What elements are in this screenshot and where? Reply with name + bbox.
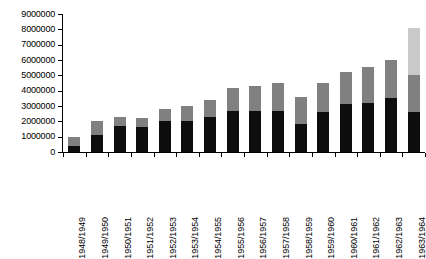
- bar-segment-series-1: [317, 112, 329, 152]
- bar-segment-series-1: [136, 127, 148, 152]
- bar-segment-series-2: [227, 88, 239, 112]
- y-tick-mark: [58, 152, 62, 153]
- x-tick-label: 1960/1961: [350, 217, 359, 259]
- x-tick-mark: [402, 153, 403, 157]
- y-tick-mark: [58, 60, 62, 61]
- y-tick-label: 4000000: [21, 86, 55, 95]
- y-tick-label: 5000000: [21, 71, 55, 80]
- y-axis-tick-labels: 0100000020000003000000400000050000006000…: [0, 0, 62, 219]
- x-tick-label: 1963/1964: [418, 217, 426, 259]
- x-tick-mark: [267, 153, 268, 157]
- bar-segment-series-1: [114, 126, 126, 152]
- y-tick-label: 6000000: [21, 56, 55, 65]
- x-tick-mark: [154, 153, 155, 157]
- bar-stack: [68, 137, 80, 152]
- y-tick-label: 2000000: [21, 117, 55, 126]
- bar-stack: [159, 109, 171, 152]
- x-tick-label: 1952/1953: [169, 217, 178, 259]
- bar-segment-series-1: [340, 104, 352, 152]
- bar-segment-series-1: [249, 111, 261, 152]
- y-tick-label: 3000000: [21, 102, 55, 111]
- x-tick-mark: [176, 153, 177, 157]
- bar-segment-series-1: [385, 98, 397, 152]
- bar-stack: [114, 117, 126, 152]
- x-tick-label: 1957/1958: [282, 217, 291, 259]
- y-tick-label: 8000000: [21, 25, 55, 34]
- y-tick-label: 7000000: [21, 40, 55, 49]
- x-tick-mark: [289, 153, 290, 157]
- bar-segment-series-1: [408, 112, 420, 152]
- bar-segment-series-1: [68, 146, 80, 152]
- bar-segment-series-3: [408, 28, 420, 76]
- bar-segment-series-2: [159, 109, 171, 121]
- x-tick-mark: [131, 153, 132, 157]
- y-tick-mark: [58, 91, 62, 92]
- bar-segment-series-2: [295, 97, 307, 125]
- x-tick-mark: [357, 153, 358, 157]
- x-tick-mark: [312, 153, 313, 157]
- bar-segment-series-2: [204, 100, 216, 117]
- bar-segment-series-2: [385, 60, 397, 98]
- bar-segment-series-2: [91, 121, 103, 135]
- bar-segment-series-2: [114, 117, 126, 126]
- bar-segment-series-2: [181, 106, 193, 121]
- y-tick-mark: [58, 29, 62, 30]
- bar-segment-series-1: [204, 117, 216, 152]
- y-tick-mark: [58, 75, 62, 76]
- bar-stack: [362, 67, 374, 152]
- bar-segment-series-1: [362, 103, 374, 152]
- x-tick-mark: [425, 153, 426, 157]
- x-tick-label: 1954/1955: [214, 217, 223, 259]
- x-tick-label: 1953/1954: [191, 217, 200, 259]
- bar-stack: [385, 60, 397, 152]
- x-tick-mark: [108, 153, 109, 157]
- bar-segment-series-2: [272, 83, 284, 111]
- x-tick-label: 1956/1957: [259, 217, 268, 259]
- bar-segment-series-2: [317, 83, 329, 112]
- y-tick-label: 1000000: [21, 132, 55, 141]
- x-tick-mark: [335, 153, 336, 157]
- bar-stack: [340, 72, 352, 152]
- y-tick-label: 9000000: [21, 10, 55, 19]
- bar-stack: [249, 86, 261, 152]
- bar-segment-series-1: [295, 124, 307, 152]
- x-tick-mark: [380, 153, 381, 157]
- bar-stack: [227, 88, 239, 152]
- x-tick-mark: [244, 153, 245, 157]
- bar-segment-series-2: [362, 67, 374, 103]
- bar-stack: [91, 121, 103, 152]
- x-tick-label: 1958/1959: [305, 217, 314, 259]
- bar-segment-series-2: [68, 137, 80, 146]
- x-tick-mark: [63, 153, 64, 157]
- x-tick-label: 1951/1952: [146, 217, 155, 259]
- x-tick-label: 1961/1962: [372, 217, 381, 259]
- bar-segment-series-1: [272, 111, 284, 152]
- plot-area: [63, 14, 425, 152]
- bar-segment-series-1: [227, 111, 239, 152]
- bar-stack: [204, 100, 216, 152]
- bar-segment-series-1: [91, 135, 103, 152]
- x-tick-label: 1950/1951: [124, 217, 133, 259]
- y-tick-mark: [58, 106, 62, 107]
- bar-segment-series-2: [340, 72, 352, 104]
- y-tick-mark: [58, 45, 62, 46]
- x-tick-mark: [86, 153, 87, 157]
- bar-stack: [295, 97, 307, 152]
- x-tick-label: 1949/1950: [101, 217, 110, 259]
- y-tick-label: 0: [50, 148, 55, 157]
- bar-stack: [408, 28, 420, 152]
- bar-stack: [272, 83, 284, 152]
- bar-stack: [181, 106, 193, 152]
- bar-stack: [136, 118, 148, 152]
- x-axis-tick-labels: 1948/19491949/19501950/19511951/19521952…: [63, 158, 425, 219]
- bar-segment-series-2: [249, 86, 261, 111]
- bar-segment-series-2: [408, 75, 420, 112]
- x-tick-label: 1959/1960: [327, 217, 336, 259]
- bar-stack: [317, 83, 329, 152]
- y-tick-mark: [58, 14, 62, 15]
- x-tick-mark: [199, 153, 200, 157]
- x-tick-label: 1962/1963: [395, 217, 404, 259]
- bar-segment-series-1: [181, 121, 193, 152]
- x-tick-label: 1955/1956: [237, 217, 246, 259]
